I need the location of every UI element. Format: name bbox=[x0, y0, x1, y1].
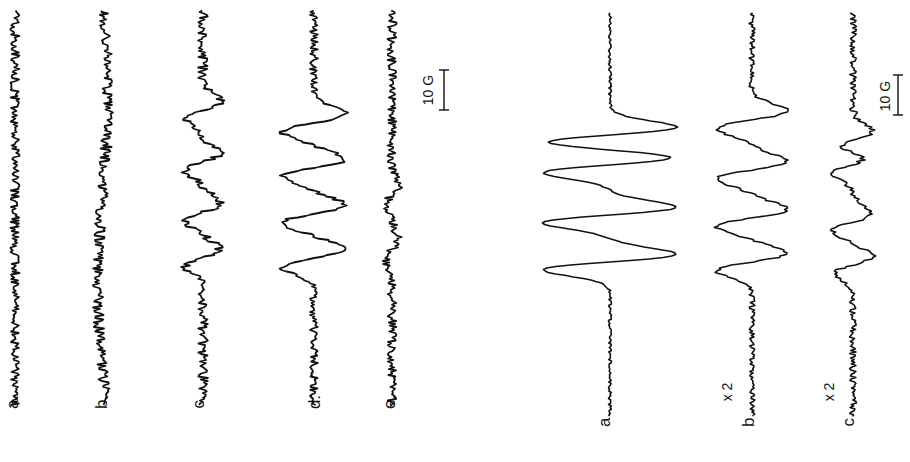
label-right-a: a. bbox=[595, 413, 615, 427]
scale-label-right: 10 G bbox=[877, 81, 893, 111]
label-left-d: d. bbox=[305, 395, 325, 409]
label-left-b: b. bbox=[92, 395, 112, 409]
gain-label-right-c: x 2 bbox=[821, 383, 837, 402]
gain-label-right-b: x 2 bbox=[719, 383, 735, 402]
label-left-e: e. bbox=[380, 395, 400, 409]
trace-left-c bbox=[181, 11, 224, 406]
label-left-c: c. bbox=[189, 395, 209, 408]
trace-left-b bbox=[93, 11, 113, 406]
trace-left-e bbox=[383, 11, 402, 406]
scale-bar-left bbox=[439, 70, 449, 110]
scale-label-left: 10 G bbox=[420, 75, 436, 105]
label-right-b: b. bbox=[739, 413, 759, 427]
label-left-a: a. bbox=[3, 395, 23, 409]
trace-right-c bbox=[831, 13, 876, 415]
right-panel: a. b. c. x 2 x 2 10 G bbox=[520, 0, 910, 462]
trace-right-a bbox=[542, 13, 677, 415]
left-spectra-plot bbox=[0, 0, 460, 462]
scale-bar-right bbox=[893, 75, 903, 115]
trace-left-d bbox=[280, 11, 349, 406]
trace-left-a bbox=[11, 11, 20, 406]
left-panel: a. b. c. d. e. 10 G bbox=[0, 0, 460, 462]
label-right-c: c. bbox=[839, 413, 859, 426]
right-spectra-plot bbox=[520, 0, 910, 462]
trace-right-b bbox=[714, 13, 788, 415]
